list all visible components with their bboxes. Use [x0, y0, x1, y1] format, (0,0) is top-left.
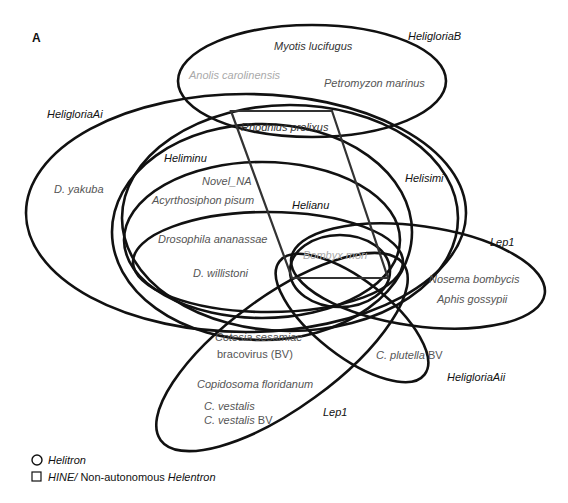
- label-nosema: Nosema bombycis: [429, 273, 519, 286]
- label-anolis: Anolis carolinensis: [189, 69, 280, 82]
- label-heligloria-ai: HeligloriaAi: [47, 108, 103, 121]
- label-drosophila-ananassae: Drosophila ananassae: [158, 233, 267, 246]
- ellipse-bombyx: [290, 235, 390, 307]
- label-aphis: Aphis gossypii: [437, 293, 507, 306]
- legend-hine: HINE/ Non-autonomous Helentron: [48, 471, 216, 483]
- label-d-willistoni: D. willistoni: [193, 267, 248, 280]
- label-copidosoma: Copidosoma floridanum: [197, 378, 313, 391]
- legend-helitron-label: Helitron: [48, 454, 86, 466]
- label-lep1-lower: Lep1: [323, 406, 347, 419]
- label-novel-na: Novel_NA: [202, 175, 252, 188]
- legend-nonautonomous-label: Non-autonomous: [77, 471, 168, 483]
- label-helianu: Helianu: [292, 199, 329, 212]
- label-petromyzon: Petromyzon marinus: [324, 77, 425, 90]
- label-heliminu: Heliminu: [164, 152, 207, 165]
- label-rhodnius: Rhodnius prolixus: [241, 121, 328, 134]
- label-c-plutella: C. plutella BV: [376, 349, 443, 362]
- label-bombyx: Bombyx mori: [303, 249, 367, 262]
- legend-helentron-label: Helentron: [168, 471, 216, 483]
- ellipse-heliminu: [112, 124, 412, 340]
- label-cotesia: Cotesia sesamiae: [215, 331, 302, 344]
- label-c-vestalis-bv-name: C. vestalis: [204, 414, 255, 426]
- label-c-vestalis-bv-suffix: BV: [255, 414, 273, 426]
- legend-helitron: Helitron: [48, 454, 86, 466]
- label-cotesia-bv: bracovirus (BV): [217, 348, 293, 361]
- label-heligloria-b: HeligloriaB: [408, 30, 461, 43]
- label-c-vestalis-bv: C. vestalis BV: [204, 414, 272, 427]
- label-lep1-right: Lep1: [490, 236, 514, 249]
- label-helisimi: Helisimi: [405, 172, 444, 185]
- label-acyrthosiphon: Acyrthosiphon pisum: [152, 194, 254, 207]
- legend-circle-icon: [32, 455, 42, 465]
- panel-label: A: [32, 31, 41, 45]
- label-heligloria-aii: HeligloriaAii: [447, 371, 505, 384]
- label-c-plutella-name: C. plutella: [376, 349, 425, 361]
- legend-square-icon: [32, 472, 41, 481]
- label-d-yakuba: D. yakuba: [54, 183, 104, 196]
- label-c-plutella-bv: BV: [425, 349, 443, 361]
- venn-diagram: [0, 0, 568, 503]
- label-c-vestalis: C. vestalis: [204, 400, 255, 413]
- label-myotis: Myotis lucifugus: [274, 40, 352, 53]
- ellipse-helianu: [133, 212, 403, 312]
- legend-hine-label: HINE/: [48, 471, 77, 483]
